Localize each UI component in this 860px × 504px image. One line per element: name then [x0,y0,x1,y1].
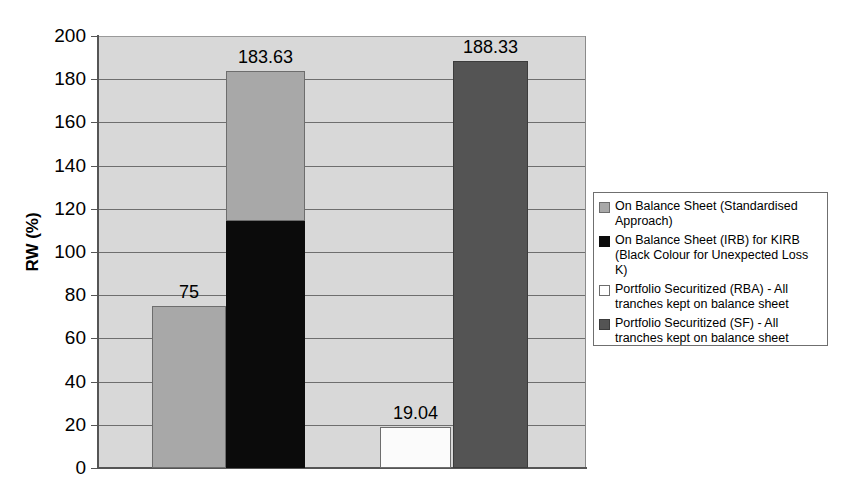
y-tick-mark [91,425,98,426]
y-tick-label-text: 100 [18,242,86,261]
y-tick-label-text: 140 [18,156,86,175]
y-tick-label: 120 [18,199,86,218]
y-tick-mark [91,122,98,123]
y-tick-label-text: 20 [18,415,86,434]
legend-item-label: Portfolio Securitized (RBA) - All tranch… [615,282,789,312]
y-tick-label: 60 [18,328,86,347]
y-tick-label: 180 [18,69,86,88]
y-tick-mark [91,382,98,383]
bar[interactable] [453,61,528,468]
y-tick-label-text: 180 [18,69,86,88]
legend-item-label: On Balance Sheet (Standardised Approach) [615,199,798,229]
y-tick-label: 40 [18,372,86,391]
y-tick-label: 140 [18,156,86,175]
bar-segment[interactable] [226,71,305,220]
y-tick-label-text: 120 [18,199,86,218]
legend-swatch-sf [599,319,610,330]
bar-data-label: 188.33 [433,38,548,56]
y-tick-mark [91,79,98,80]
bar[interactable] [152,306,226,468]
y-tick-label: 20 [18,415,86,434]
legend: On Balance Sheet (Standardised Approach)… [593,192,828,346]
y-tick-label: 160 [18,112,86,131]
y-tick-mark [91,209,98,210]
legend-swatch-irb [599,236,610,247]
bar-segment[interactable] [226,221,305,468]
y-tick-label-text: 160 [18,112,86,131]
bar[interactable] [380,427,451,468]
y-tick-label-text: 200 [18,26,86,45]
y-tick-label-text: 80 [18,285,86,304]
plot-right-edge [585,36,586,468]
bar-chart: RW (%) 200180160140120100806040200 75183… [0,0,860,504]
legend-item[interactable]: Portfolio Securitized (SF) - All tranche… [599,316,823,346]
y-tick-mark [91,166,98,167]
y-tick-label: 80 [18,285,86,304]
legend-swatch-standardised [599,202,610,213]
bar-data-label: 183.63 [206,48,325,66]
y-tick-mark [91,468,98,469]
y-tick-mark [91,338,98,339]
y-tick-label: 0 [18,458,86,477]
y-tick-mark [91,295,98,296]
legend-item[interactable]: On Balance Sheet (Standardised Approach) [599,199,823,229]
y-tick-label: 100 [18,242,86,261]
y-tick-mark [91,36,98,37]
y-tick-label-text: 60 [18,328,86,347]
legend-item[interactable]: Portfolio Securitized (RBA) - All tranch… [599,282,823,312]
y-tick-label-text: 40 [18,372,86,391]
legend-swatch-rba [599,285,610,296]
legend-item[interactable]: On Balance Sheet (IRB) for KIRB (Black C… [599,233,823,278]
y-tick-label-text: 0 [18,458,86,477]
legend-item-label: Portfolio Securitized (SF) - All tranche… [615,316,789,346]
y-tick-label: 200 [18,26,86,45]
legend-item-label: On Balance Sheet (IRB) for KIRB (Black C… [615,233,823,278]
y-tick-mark [91,252,98,253]
